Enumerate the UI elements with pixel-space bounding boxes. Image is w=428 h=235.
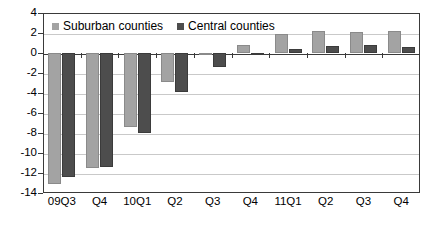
bar-series-layer xyxy=(43,13,420,193)
legend-entry-central: Central counties xyxy=(177,20,275,32)
bar-suburban-Q4 xyxy=(237,45,250,53)
bar-suburban-Q4 xyxy=(388,31,401,53)
x-axis-tick-label: Q2 xyxy=(318,196,333,208)
x-axis-tick-label: Q3 xyxy=(356,196,371,208)
bar-suburban-11Q1 xyxy=(275,34,288,53)
chart-legend: Suburban counties Central counties xyxy=(48,18,279,34)
x-axis-tick-label: 11Q1 xyxy=(274,196,301,208)
y-axis-tick-label: 4 xyxy=(31,7,37,19)
bar-suburban-Q4 xyxy=(86,53,99,168)
bar-central-Q2 xyxy=(326,46,339,54)
y-axis-tick-label: -2 xyxy=(27,67,37,79)
bar-suburban-Q3 xyxy=(350,32,363,53)
legend-label-central: Central counties xyxy=(188,20,275,32)
y-axis-tick-label: -10 xyxy=(20,147,37,159)
x-axis-tick-label: Q4 xyxy=(92,196,107,208)
y-axis-tick-label: 0 xyxy=(31,47,37,59)
bar-central-09Q3 xyxy=(62,53,75,177)
legend-label-suburban: Suburban counties xyxy=(63,20,163,32)
bar-central-Q4 xyxy=(402,47,415,54)
bar-suburban-Q2 xyxy=(161,53,174,82)
x-axis-tick-label: Q2 xyxy=(167,196,182,208)
x-axis-tick-label: 10Q1 xyxy=(123,196,151,208)
x-axis-tick-label: Q3 xyxy=(205,196,220,208)
x-axis-tick-label: Q4 xyxy=(243,196,258,208)
bar-suburban-09Q3 xyxy=(48,53,61,184)
bar-central-Q3 xyxy=(364,45,377,53)
bar-central-Q4 xyxy=(100,53,113,167)
y-axis-tick-label: -12 xyxy=(20,167,37,179)
bar-suburban-Q2 xyxy=(312,31,325,53)
legend-swatch-central-icon xyxy=(177,23,184,30)
y-axis-labels: 420-2-4-6-8-10-12-14 xyxy=(0,0,40,235)
bar-suburban-Q3 xyxy=(199,53,212,55)
bar-chart: 420-2-4-6-8-10-12-14 09Q3Q410Q1Q2Q3Q411Q… xyxy=(0,0,428,235)
y-axis-tick-label: -6 xyxy=(27,107,37,119)
y-axis-tick-label: -8 xyxy=(27,127,37,139)
legend-swatch-suburban-icon xyxy=(52,23,59,30)
bar-central-11Q1 xyxy=(289,49,302,54)
legend-entry-suburban: Suburban counties xyxy=(52,20,163,32)
bar-suburban-10Q1 xyxy=(124,53,137,127)
bar-central-Q4 xyxy=(251,53,264,55)
y-axis-tick-label: -4 xyxy=(27,87,37,99)
bar-central-10Q1 xyxy=(138,53,151,133)
x-axis-labels: 09Q3Q410Q1Q2Q3Q411Q1Q2Q3Q4 xyxy=(43,196,420,218)
bar-central-Q2 xyxy=(175,53,188,92)
y-axis-tick-label: -14 xyxy=(20,187,37,199)
x-axis-tick-label: 09Q3 xyxy=(48,196,76,208)
bar-central-Q3 xyxy=(213,53,226,67)
y-axis-tick-mark xyxy=(38,193,43,194)
y-axis-tick-label: 2 xyxy=(31,27,37,39)
x-axis-tick-label: Q4 xyxy=(393,196,408,208)
